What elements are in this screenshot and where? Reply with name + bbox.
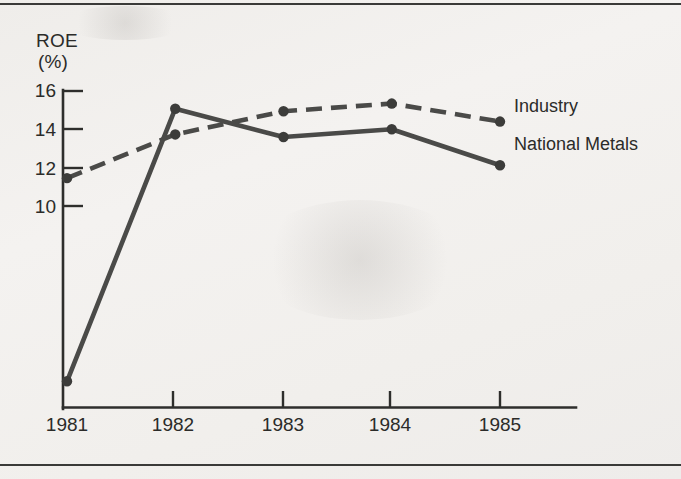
data-point-national-metals-1983 xyxy=(278,132,288,142)
data-point-industry-1985 xyxy=(495,116,505,126)
data-point-national-metals-1981 xyxy=(62,376,72,386)
plot-area xyxy=(0,0,681,479)
data-point-national-metals-1985 xyxy=(495,160,505,170)
data-point-industry-1983 xyxy=(278,106,288,116)
chart-figure: ROE (%) 16 14 12 10 1981 1982 1983 1984 … xyxy=(0,0,681,479)
data-point-industry-1984 xyxy=(387,98,397,108)
series-label-national-metals: National Metals xyxy=(514,134,638,155)
data-point-industry-1981 xyxy=(62,173,72,183)
x-tick-label-1981: 1981 xyxy=(32,414,102,436)
data-point-national-metals-1984 xyxy=(387,124,397,134)
x-tick-label-1985: 1985 xyxy=(465,414,535,436)
x-tick-label-1983: 1983 xyxy=(248,414,318,436)
data-point-industry-1982 xyxy=(170,129,180,139)
series-label-industry: Industry xyxy=(514,96,578,117)
data-point-national-metals-1982 xyxy=(170,104,180,114)
x-tick-label-1982: 1982 xyxy=(138,414,208,436)
series-line-national-metals xyxy=(67,109,500,382)
x-tick-label-1984: 1984 xyxy=(355,414,425,436)
